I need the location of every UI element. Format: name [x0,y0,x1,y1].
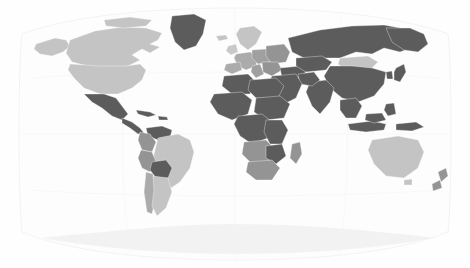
country-libya-egypt [248,78,284,98]
country-tasmania [404,179,412,185]
country-korea [386,71,393,79]
country-eastern-europe [266,44,290,64]
world-map-svg [0,0,470,268]
world-map-container [0,0,470,268]
